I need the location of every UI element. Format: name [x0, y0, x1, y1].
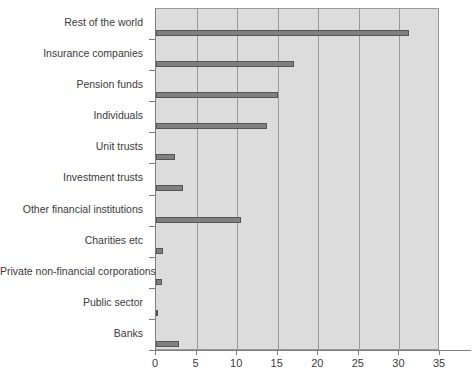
x-axis-tick-30: [398, 350, 399, 355]
bar-row: [156, 320, 440, 351]
bar-row: [156, 40, 440, 71]
bar: [156, 154, 175, 160]
y-axis-tick: [149, 132, 156, 133]
x-axis-tick-25: [358, 350, 359, 355]
x-axis-tick-15: [277, 350, 278, 355]
bar: [156, 310, 158, 316]
bar-row: [156, 133, 440, 164]
y-axis-tick: [149, 319, 156, 320]
bar-row: [156, 164, 440, 195]
x-axis-label-35: 35: [419, 357, 459, 369]
y-axis-tick: [149, 163, 156, 164]
bar-row: [156, 227, 440, 258]
x-axis-label-30: 30: [378, 357, 418, 369]
y-axis-line: [155, 8, 156, 350]
plot-area: [155, 8, 439, 350]
chart-title: [155, 0, 440, 5]
bar: [156, 279, 162, 285]
bar-chart: Rest of the worldInsurance companiesPens…: [0, 0, 475, 385]
y-axis-tick: [149, 257, 156, 258]
x-axis-label-15: 15: [257, 357, 297, 369]
x-axis-tick-20: [317, 350, 318, 355]
y-axis-label: Unit trusts: [0, 140, 149, 152]
bar-row: [156, 289, 440, 320]
x-axis-tick-5: [196, 350, 197, 355]
x-axis-label-25: 25: [338, 357, 378, 369]
bar: [156, 248, 163, 254]
x-axis-label-0: 0: [135, 357, 175, 369]
bar-row: [156, 71, 440, 102]
x-axis-line: [151, 350, 471, 351]
y-axis-label: Pension funds: [0, 78, 149, 90]
y-axis-tick: [149, 39, 156, 40]
y-axis-label: Other financial institutions: [0, 203, 149, 215]
bar: [156, 92, 278, 98]
bar-row: [156, 258, 440, 289]
bar: [156, 123, 267, 129]
x-axis-label-20: 20: [297, 357, 337, 369]
x-axis-tick-10: [236, 350, 237, 355]
y-axis-label: Private non-financial corporations: [0, 265, 149, 277]
bar: [156, 30, 409, 36]
y-axis-label: Insurance companies: [0, 47, 149, 59]
x-axis-label-10: 10: [216, 357, 256, 369]
y-axis-tick: [149, 288, 156, 289]
y-axis-label: Banks: [0, 327, 149, 339]
y-axis-label: Investment trusts: [0, 171, 149, 183]
bar-row: [156, 9, 440, 40]
y-axis-label: Charities etc: [0, 234, 149, 246]
bar: [156, 341, 179, 347]
bar-row: [156, 196, 440, 227]
x-axis-tick-0: [155, 350, 156, 355]
x-axis-tick-35: [439, 350, 440, 355]
bar: [156, 185, 183, 191]
x-axis-label-5: 5: [176, 357, 216, 369]
bar: [156, 217, 241, 223]
y-axis-label: Individuals: [0, 109, 149, 121]
y-axis-tick: [149, 101, 156, 102]
y-axis-tick: [149, 70, 156, 71]
bar-row: [156, 102, 440, 133]
y-axis-label: Rest of the world: [0, 16, 149, 28]
y-axis-tick: [149, 226, 156, 227]
y-axis-tick: [149, 195, 156, 196]
bar: [156, 61, 294, 67]
y-axis-label: Public sector: [0, 296, 149, 308]
